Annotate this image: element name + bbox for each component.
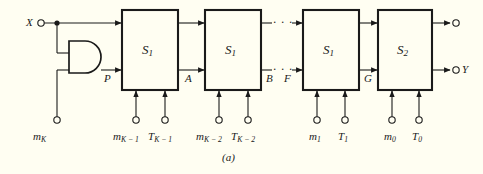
block-s1-2-label: S1	[225, 43, 236, 58]
signal-a-label: A	[185, 73, 192, 84]
output-y-label: Y	[462, 64, 468, 75]
x-input-label: X	[26, 17, 33, 28]
terminal-label-7: T0	[412, 131, 422, 144]
terminal-m1	[314, 117, 320, 123]
signal-b-label: B	[266, 73, 273, 84]
terminal-label-2: mK − 2	[196, 131, 222, 144]
block-s1-3-label: S1	[323, 43, 334, 58]
ellipsis-bottom: · · ·	[273, 63, 293, 75]
terminal-label-1: TK − 1	[148, 131, 172, 144]
signal-p-label: P	[104, 73, 111, 84]
terminal-t0	[416, 117, 422, 123]
signal-g-label: G	[364, 73, 372, 84]
figure-canvas: X P S1 S1 S1 S2 A B F G Y · · · · · · mK…	[0, 0, 483, 174]
terminal-label-3: TK − 2	[231, 131, 255, 144]
block-s2-label: S2	[397, 43, 408, 58]
terminal-label-4: m1	[309, 131, 321, 144]
terminal-tk1	[162, 117, 168, 123]
and-output-wire-p	[101, 57, 121, 70]
terminal-t1	[342, 117, 348, 123]
circuit-svg	[0, 0, 483, 174]
terminal-label-6: m0	[384, 131, 396, 144]
terminal-mk2	[216, 117, 222, 123]
figure-caption: (a)	[222, 152, 235, 163]
ellipsis-top: · · ·	[273, 16, 293, 28]
terminal-mk1	[133, 117, 139, 123]
terminal-label-0: mK − 1	[113, 131, 139, 144]
terminal-m0	[389, 117, 395, 123]
x-input-terminal	[38, 20, 44, 26]
block-s1-1-label: S1	[142, 43, 153, 58]
and-gate-body	[69, 41, 101, 73]
output-y-terminal	[453, 67, 459, 73]
terminal-tk2	[245, 117, 251, 123]
terminal-label-5: T1	[338, 131, 348, 144]
mk-terminal	[54, 117, 60, 123]
output-top-terminal	[453, 20, 459, 26]
terminal-label-mk: mK	[33, 131, 46, 144]
